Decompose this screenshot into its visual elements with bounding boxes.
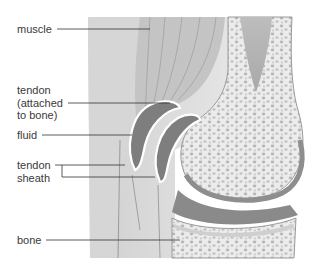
- label-muscle: muscle: [17, 23, 52, 36]
- label-tendon-attached: tendon (attached to bone): [17, 84, 63, 122]
- label-tendon-sheath: tendon sheath: [17, 159, 51, 184]
- label-fluid: fluid: [17, 129, 37, 142]
- joint-illustration: [0, 0, 316, 262]
- label-bone: bone: [17, 234, 41, 247]
